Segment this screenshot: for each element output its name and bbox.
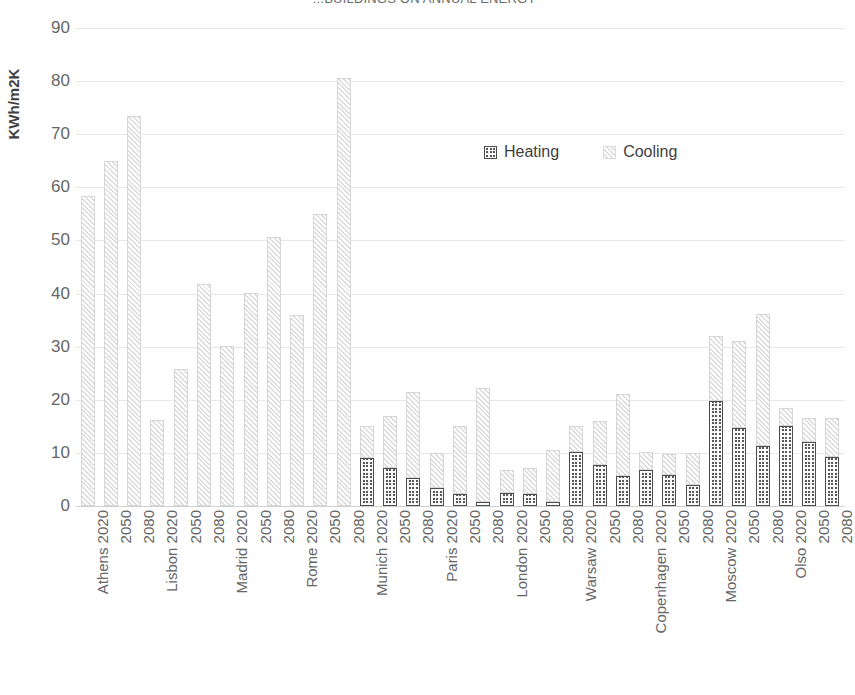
bar-column[interactable] — [313, 28, 327, 506]
bar-column[interactable] — [150, 28, 164, 506]
bar-column[interactable] — [406, 28, 420, 506]
bar-segment-cooling — [150, 420, 164, 506]
bar-segment-cooling — [709, 336, 723, 401]
bar-segment-cooling — [756, 314, 770, 446]
bar-column[interactable] — [686, 28, 700, 506]
x-tick-label: Lisbon 2020 — [163, 510, 180, 660]
x-tick-label: 2080 — [419, 510, 436, 660]
bar-segment-heating — [406, 478, 420, 506]
bar-column[interactable] — [500, 28, 514, 506]
x-tick-label: 2080 — [838, 510, 855, 660]
x-tick-label: Olso 2020 — [792, 510, 809, 660]
bar-column[interactable] — [104, 28, 118, 506]
bar-segment-cooling — [197, 284, 211, 506]
x-tick-label: Copenhagen 2020 — [652, 510, 669, 660]
bar-column[interactable] — [383, 28, 397, 506]
x-tick-label: 2050 — [326, 510, 343, 660]
x-tick-label: 2080 — [559, 510, 576, 660]
legend-item-heating[interactable]: Heating — [484, 143, 559, 161]
bar-segment-heating — [546, 502, 560, 506]
bar-column[interactable] — [593, 28, 607, 506]
gridline-0 — [76, 506, 844, 507]
bar-segment-heating — [476, 502, 490, 506]
bar-column[interactable] — [81, 28, 95, 506]
bar-column[interactable] — [546, 28, 560, 506]
bar-segment-heating — [825, 457, 839, 506]
x-axis-tick-labels: Athens 202020502080Lisbon 202020502080Ma… — [76, 510, 844, 690]
bar-column[interactable] — [779, 28, 793, 506]
bar-segment-cooling — [290, 315, 304, 506]
x-tick-label: 2050 — [815, 510, 832, 660]
bar-column[interactable] — [756, 28, 770, 506]
y-tick-80: 80 — [51, 71, 70, 91]
bar-segment-heating — [732, 428, 746, 506]
bar-segment-heating — [639, 470, 653, 506]
bar-column[interactable] — [523, 28, 537, 506]
y-axis-tick-labels: 0102030405060708090 — [28, 28, 70, 506]
bar-segment-cooling — [546, 450, 560, 502]
bar-segment-cooling — [430, 453, 444, 489]
x-tick-label: 2050 — [466, 510, 483, 660]
bar-segment-cooling — [220, 346, 234, 506]
y-tick-50: 50 — [51, 230, 70, 250]
bar-column[interactable] — [476, 28, 490, 506]
legend-label-cooling: Cooling — [623, 143, 677, 161]
legend-item-cooling[interactable]: Cooling — [603, 143, 677, 161]
bar-column[interactable] — [337, 28, 351, 506]
x-tick-label: 2080 — [210, 510, 227, 660]
bar-column[interactable] — [127, 28, 141, 506]
heating-swatch-icon — [484, 146, 497, 159]
bar-column[interactable] — [290, 28, 304, 506]
bar-segment-cooling — [313, 214, 327, 506]
bar-segment-cooling — [127, 116, 141, 506]
bar-segment-cooling — [406, 392, 420, 478]
bar-column[interactable] — [616, 28, 630, 506]
y-tick-90: 90 — [51, 18, 70, 38]
bar-column[interactable] — [732, 28, 746, 506]
bar-segment-cooling — [244, 293, 258, 506]
bar-column[interactable] — [174, 28, 188, 506]
bar-segment-cooling — [476, 388, 490, 502]
bar-segment-heating — [569, 452, 583, 506]
bar-column[interactable] — [267, 28, 281, 506]
bar-segment-heating — [430, 488, 444, 506]
bar-segment-cooling — [500, 470, 514, 492]
bar-column[interactable] — [430, 28, 444, 506]
bar-segment-cooling — [825, 418, 839, 456]
bar-column[interactable] — [825, 28, 839, 506]
bar-column[interactable] — [453, 28, 467, 506]
bar-column[interactable] — [802, 28, 816, 506]
bar-column[interactable] — [639, 28, 653, 506]
chart-title: ...BUILDINGS ON ANNUAL ENERGY — [0, 0, 849, 6]
bar-column[interactable] — [662, 28, 676, 506]
bar-segment-heating — [523, 494, 537, 506]
bar-column[interactable] — [709, 28, 723, 506]
y-tick-60: 60 — [51, 177, 70, 197]
bar-segment-cooling — [732, 341, 746, 428]
x-tick-label: Moscow 2020 — [722, 510, 739, 660]
x-tick-label: 2080 — [140, 510, 157, 660]
legend-label-heating: Heating — [504, 143, 559, 161]
bar-column[interactable] — [569, 28, 583, 506]
x-tick-label: 2080 — [769, 510, 786, 660]
bar-column[interactable] — [220, 28, 234, 506]
bar-segment-heating — [593, 465, 607, 506]
x-tick-label: 2080 — [629, 510, 646, 660]
x-tick-label: 2050 — [187, 510, 204, 660]
bar-column[interactable] — [197, 28, 211, 506]
y-axis-title: KWh/m2K — [5, 118, 22, 140]
x-tick-label: 2050 — [396, 510, 413, 660]
x-tick-label: 2080 — [489, 510, 506, 660]
bar-column[interactable] — [360, 28, 374, 506]
bar-segment-cooling — [453, 426, 467, 495]
bar-segment-cooling — [616, 394, 630, 476]
bar-segment-heating — [686, 485, 700, 506]
bar-column[interactable] — [244, 28, 258, 506]
x-tick-label: Athens 2020 — [94, 510, 111, 660]
x-tick-label: Paris 2020 — [443, 510, 460, 660]
y-tick-20: 20 — [51, 390, 70, 410]
y-tick-30: 30 — [51, 337, 70, 357]
x-tick-label: 2050 — [675, 510, 692, 660]
x-tick-label: 2050 — [745, 510, 762, 660]
bar-segment-cooling — [802, 418, 816, 442]
